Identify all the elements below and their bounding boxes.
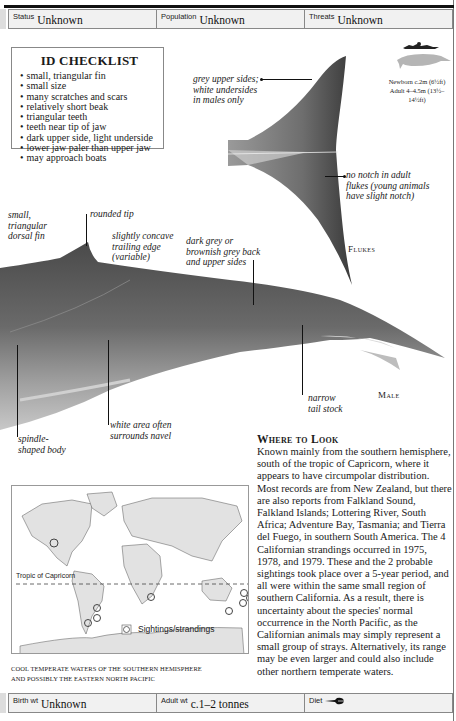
status-label: Status	[13, 12, 34, 21]
birth-weight-label: Birth wt	[13, 696, 38, 705]
top-rule	[4, 5, 454, 8]
threats-value: Unknown	[337, 14, 382, 26]
header-tab	[0, 9, 6, 29]
where-to-look-title: Where to Look	[257, 433, 452, 446]
birth-weight-cell: Birth wt Unknown	[9, 694, 156, 712]
annotation-fluke-upper: grey upper sides; white undersides in ma…	[193, 74, 259, 106]
threats-cell: Threats Unknown	[304, 10, 452, 28]
checklist-title: ID CHECKLIST	[20, 53, 159, 69]
adult-weight-label: Adult wt	[161, 696, 188, 705]
distribution-map: Tropic of Capricorn Sightings/strandings	[11, 485, 249, 654]
threats-label: Threats	[309, 12, 334, 21]
checklist-list: small, triangular fin small size many sc…	[20, 71, 159, 164]
whale-body-illustration	[0, 240, 456, 440]
size-info: Newborn c.2m (6½ft) Adult 4–4.5m (13½–14…	[382, 77, 452, 104]
annotation-trailing-edge: slightly concave trailing edge (variable…	[112, 231, 173, 263]
annotation-back-color: dark grey or brownish grey back and uppe…	[186, 236, 260, 268]
leader-line	[262, 79, 312, 80]
diet-cell: Diet	[304, 694, 452, 712]
status-cell: Status Unknown	[9, 10, 156, 28]
adult-weight-value: c.1–2 tonnes	[191, 698, 249, 710]
annotation-spindle-body: spindle- shaped body	[18, 434, 66, 455]
leader-line	[108, 340, 109, 425]
leader-line	[17, 345, 18, 437]
male-caption: Male	[378, 390, 400, 400]
map-caption: COOL TEMPERATE WATERS OF THE SOUTHERN HE…	[11, 664, 251, 684]
status-bar: Status Unknown Population Unknown Threat…	[8, 9, 453, 29]
tropic-label: Tropic of Capricorn	[16, 572, 75, 579]
weight-diet-bar: Birth wt Unknown Adult wt c.1–2 tonnes D…	[8, 693, 453, 713]
status-value: Unknown	[37, 14, 82, 26]
legend-label: Sightings/strandings	[138, 624, 215, 634]
population-value: Unknown	[199, 14, 244, 26]
size-comparison-icon	[395, 38, 455, 78]
fish-icon	[325, 696, 345, 706]
annotation-navel: white area often surrounds navel	[110, 420, 171, 441]
adult-weight-cell: Adult wt c.1–2 tonnes	[156, 694, 304, 712]
annotation-fluke-notch: no notch in adult flukes (young animals …	[346, 170, 429, 202]
flukes-caption: Flukes	[348, 244, 375, 254]
leader-line	[86, 214, 87, 246]
annotation-tail-stock: narrow tail stock	[308, 393, 343, 414]
leader-line	[302, 325, 303, 395]
leader-dot	[343, 175, 346, 178]
checklist-item: may approach boats	[20, 153, 159, 163]
newborn-size: Newborn c.2m (6½ft)	[382, 77, 452, 86]
population-label: Population	[161, 12, 196, 21]
leader-line	[253, 260, 254, 305]
annotation-rounded-tip: rounded tip	[90, 209, 134, 220]
population-cell: Population Unknown	[156, 10, 304, 28]
adult-size: Adult 4–4.5m (13½–14½ft)	[382, 86, 452, 104]
leader-line	[325, 176, 345, 177]
where-to-look-text: Known mainly from the southern hemispher…	[257, 446, 452, 678]
diet-label: Diet	[309, 696, 322, 705]
annotation-dorsal-fin: small, triangular dorsal fin	[8, 210, 47, 242]
leader-dot	[260, 78, 263, 81]
footer-tab	[0, 693, 6, 713]
id-checklist: ID CHECKLIST small, triangular fin small…	[11, 47, 164, 149]
birth-weight-value: Unknown	[41, 698, 86, 710]
where-to-look: Where to Look Known mainly from the sout…	[257, 433, 452, 678]
